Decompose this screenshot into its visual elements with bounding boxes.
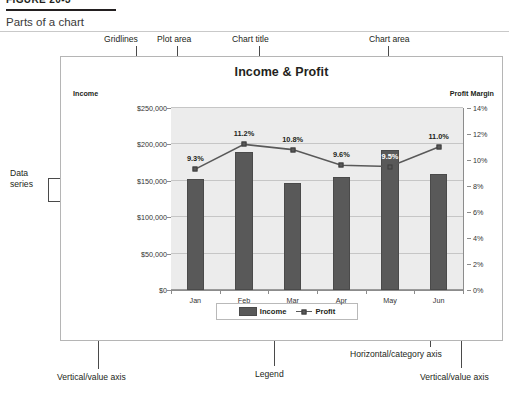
axis-line-right xyxy=(463,108,464,291)
y2-axis-tick-mark xyxy=(467,160,471,161)
y2-axis-tick-label: 0% xyxy=(473,286,483,295)
bar-swatch-icon xyxy=(239,307,257,316)
annotation-data-series: Data series xyxy=(10,168,33,190)
vertical-value-axis-right: 0%2%4%6%8%10%12%14% xyxy=(467,108,503,290)
chart-legend[interactable]: Income Profit xyxy=(216,303,358,320)
data-label-feb: 11.2% xyxy=(234,129,255,138)
y2-axis-tick-mark xyxy=(467,290,471,291)
legend-label-profit: Profit xyxy=(315,307,335,316)
annotation-vertical-value-axis-left: Vertical/value axis xyxy=(57,372,126,382)
caption-divider xyxy=(0,31,509,32)
line-marker-icon xyxy=(296,311,312,312)
annotation-data-series-line2: series xyxy=(10,179,33,190)
leader-legend-down xyxy=(274,340,275,366)
leader-data-series-bracket xyxy=(48,178,49,202)
figure-label: FIGURE 20-3 xyxy=(6,0,71,5)
x-axis-tick-mark xyxy=(220,290,221,294)
data-point-marker-jun[interactable] xyxy=(436,145,441,150)
x-axis-tick-mark xyxy=(366,290,367,294)
annotation-vertical-value-axis-right: Vertical/value axis xyxy=(420,372,489,382)
annotation-legend: Legend xyxy=(255,369,284,379)
y2-axis-tick-label: 4% xyxy=(473,234,483,243)
data-label-apr: 9.6% xyxy=(333,150,350,159)
legend-item-profit[interactable]: Profit xyxy=(296,307,335,316)
chart-area[interactable]: Income & Profit Income Profit Margin $0$… xyxy=(60,56,503,341)
y2-axis-tick-mark xyxy=(467,108,471,109)
figure-rule xyxy=(6,9,116,11)
y-axis-tick-label: $100,000 xyxy=(137,213,167,222)
x-axis-tick-mark xyxy=(414,290,415,294)
x-axis-tick-mark xyxy=(317,290,318,294)
x-axis-tick-label-apr: Apr xyxy=(336,296,347,305)
y2-axis-tick-label: 12% xyxy=(473,130,487,139)
annotation-horizontal-category-axis: Horizontal/category axis xyxy=(350,349,442,359)
annotation-plot-area: Plot area xyxy=(157,34,191,44)
y2-axis-tick-mark xyxy=(467,238,471,239)
secondary-axis-title: Profit Margin xyxy=(450,89,494,98)
data-label-jun: 11.0% xyxy=(428,132,449,141)
x-axis-tick-label-may: May xyxy=(383,296,397,305)
primary-axis-title: Income xyxy=(73,89,98,98)
legend-item-income[interactable]: Income xyxy=(239,307,287,316)
y-axis-tick-label: $200,000 xyxy=(137,140,167,149)
y-axis-tick-label: $150,000 xyxy=(137,176,167,185)
y-axis-tick-label: $0 xyxy=(159,286,167,295)
x-axis-tick-mark xyxy=(171,290,172,294)
y2-axis-tick-mark xyxy=(467,134,471,135)
x-axis-tick-label-jun: Jun xyxy=(433,296,445,305)
annotation-gridlines: Gridlines xyxy=(104,34,138,44)
data-label-jan: 9.3% xyxy=(187,154,204,163)
profit-line-series[interactable] xyxy=(171,108,463,290)
annotation-chart-area: Chart area xyxy=(369,34,410,44)
chart-title: Income & Profit xyxy=(61,65,502,79)
y2-axis-tick-label: 2% xyxy=(473,260,483,269)
y2-axis-tick-label: 8% xyxy=(473,182,483,191)
y2-axis-tick-label: 6% xyxy=(473,208,483,217)
x-axis-tick-label-feb: Feb xyxy=(238,296,250,305)
figure-caption: Parts of a chart xyxy=(6,16,84,28)
plot-area[interactable]: 9.3%11.2%10.8%9.6%9.5%11.0% xyxy=(171,108,463,290)
y-axis-tick-label: $50,000 xyxy=(141,249,167,258)
y2-axis-tick-mark xyxy=(467,212,471,213)
y2-axis-tick-label: 10% xyxy=(473,156,487,165)
annotation-data-series-line1: Data xyxy=(10,168,33,179)
data-point-marker-jan[interactable] xyxy=(193,167,198,172)
legend-label-income: Income xyxy=(260,307,287,316)
y2-axis-tick-mark xyxy=(467,186,471,187)
data-point-marker-feb[interactable] xyxy=(242,142,247,147)
y2-axis-tick-mark xyxy=(467,264,471,265)
y2-axis-tick-label: 14% xyxy=(473,104,487,113)
x-axis-tick-label-jan: Jan xyxy=(190,296,202,305)
data-point-marker-mar[interactable] xyxy=(290,147,295,152)
x-axis-tick-label-mar: Mar xyxy=(286,296,298,305)
data-label-may: 9.5% xyxy=(382,152,399,161)
annotation-chart-title: Chart title xyxy=(232,34,269,44)
data-point-marker-apr[interactable] xyxy=(339,163,344,168)
vertical-value-axis-left: $0$50,000$100,000$150,000$200,000$250,00… xyxy=(61,108,167,290)
data-label-mar: 10.8% xyxy=(282,135,303,144)
y-axis-tick-label: $250,000 xyxy=(137,104,167,113)
x-axis-tick-mark xyxy=(463,290,464,294)
x-axis-tick-mark xyxy=(268,290,269,294)
data-point-marker-may[interactable] xyxy=(388,164,393,169)
